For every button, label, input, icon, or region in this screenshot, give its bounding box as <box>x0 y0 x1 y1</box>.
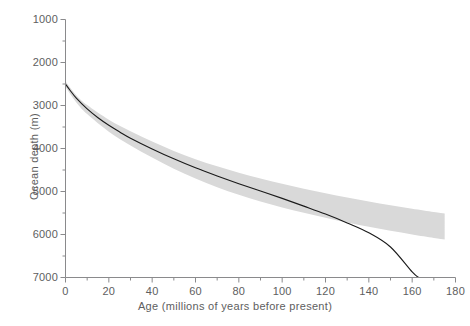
x-tick-label: 100 <box>262 285 302 297</box>
x-axis-title: Age (millions of years before present) <box>0 300 470 312</box>
x-tick-label: 140 <box>349 285 389 297</box>
x-tick-label: 120 <box>306 285 346 297</box>
x-tick-label: 60 <box>176 285 216 297</box>
y-tick-label: 3000 <box>22 99 58 111</box>
x-tick-label: 20 <box>89 285 129 297</box>
axis-lines <box>66 20 456 278</box>
x-tick-label: 80 <box>219 285 259 297</box>
x-tick-label: 160 <box>392 285 432 297</box>
y-tick-label: 7000 <box>22 271 58 283</box>
y-tick-label: 1000 <box>22 13 58 25</box>
figure-container: 1000200030004000500060007000020406080100… <box>0 0 470 326</box>
y-tick-label: 2000 <box>22 56 58 68</box>
x-tick-label: 180 <box>436 285 470 297</box>
y-axis-title: Ocean depth (m) <box>28 113 40 200</box>
y-tick-label: 6000 <box>22 228 58 240</box>
uncertainty-band <box>66 81 445 239</box>
axis-ticks <box>61 20 456 283</box>
x-tick-label: 40 <box>132 285 172 297</box>
chart-plot-area <box>0 0 470 326</box>
x-tick-label: 0 <box>46 285 86 297</box>
